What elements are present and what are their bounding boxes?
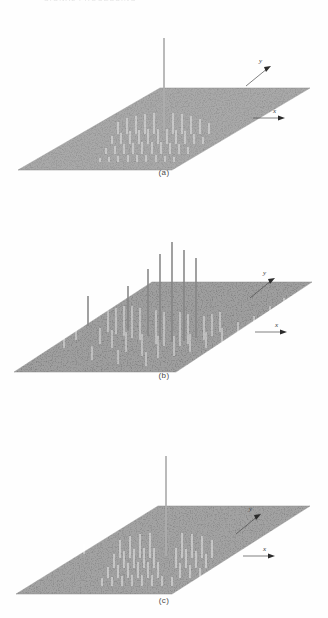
panel-c: y x xyxy=(0,434,328,618)
caption-c: (c) xyxy=(0,596,328,605)
axis-y-a: y xyxy=(246,57,271,86)
axis-x-c: x xyxy=(243,545,275,559)
panel-b: y x xyxy=(0,214,328,396)
caption-b: (b) xyxy=(0,371,328,380)
running-head: SIGNAL PROCESSING xyxy=(44,0,274,4)
axis-x-b: x xyxy=(255,321,287,335)
axis-y-label-a: y xyxy=(258,57,263,65)
surface-mesh-c xyxy=(0,486,328,614)
surface-plot-c: y x xyxy=(0,434,328,618)
axis-y-label-b: y xyxy=(262,269,267,277)
surface-plot-b: y x xyxy=(0,214,328,396)
caption-a: (a) xyxy=(0,168,328,177)
axis-x-label-b: x xyxy=(274,321,279,329)
axis-x-label-c: x xyxy=(262,545,267,553)
figure-page: SIGNAL PROCESSING xyxy=(0,0,328,618)
